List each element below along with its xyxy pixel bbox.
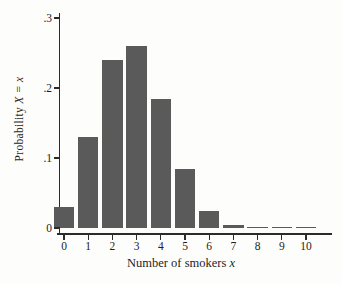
- x-tick-label: 3: [127, 240, 147, 252]
- smokers-probability-histogram: Probability X = x 0.1.2.3 012345678910 N…: [0, 0, 342, 284]
- x-tick-label: 6: [199, 240, 219, 252]
- x-axis-line: [57, 233, 332, 235]
- bar: [296, 227, 317, 228]
- y-axis-title: Probability X = x: [13, 77, 25, 162]
- x-axis-title: Number of smokers x: [127, 256, 235, 271]
- x-tick: [63, 235, 64, 240]
- y-tick-label: .3: [30, 13, 52, 24]
- y-axis-line: [59, 13, 60, 234]
- bar: [54, 207, 75, 228]
- x-tick: [88, 235, 89, 240]
- x-tick-label: 1: [78, 240, 98, 252]
- y-tick-label: .2: [30, 83, 52, 94]
- x-tick-label: 5: [175, 240, 195, 252]
- x-tick: [281, 235, 282, 240]
- x-tick-label: 8: [248, 240, 268, 252]
- x-tick: [112, 235, 113, 240]
- bar: [199, 211, 220, 229]
- x-tick: [257, 235, 258, 240]
- x-tick-label: 10: [296, 240, 316, 252]
- x-tick-label: 9: [272, 240, 292, 252]
- x-tick-label: 2: [102, 240, 122, 252]
- y-tick: [54, 87, 60, 88]
- x-axis-title-text: Number of smokers: [127, 256, 226, 270]
- y-tick-label: 0: [30, 223, 52, 234]
- x-tick-label: 7: [223, 240, 243, 252]
- y-axis-title-variable: X = x: [13, 77, 25, 104]
- x-tick-label: 0: [54, 240, 74, 252]
- x-axis-title-variable: x: [229, 256, 235, 270]
- bar: [223, 225, 244, 229]
- bar: [78, 137, 99, 228]
- x-tick-label: 4: [151, 240, 171, 252]
- bar: [151, 99, 172, 229]
- y-tick-label: .1: [30, 153, 52, 164]
- bar: [126, 46, 147, 228]
- x-tick: [305, 235, 306, 240]
- x-tick: [136, 235, 137, 240]
- bar: [175, 169, 196, 229]
- y-axis-title-text: Probability: [13, 107, 25, 161]
- bar: [102, 60, 123, 228]
- x-tick: [184, 235, 185, 240]
- y-tick: [54, 17, 60, 18]
- y-tick: [54, 227, 60, 228]
- x-tick: [233, 235, 234, 240]
- x-tick: [209, 235, 210, 240]
- y-tick: [54, 157, 60, 158]
- x-tick: [160, 235, 161, 240]
- bar: [272, 227, 293, 228]
- bar: [247, 227, 268, 228]
